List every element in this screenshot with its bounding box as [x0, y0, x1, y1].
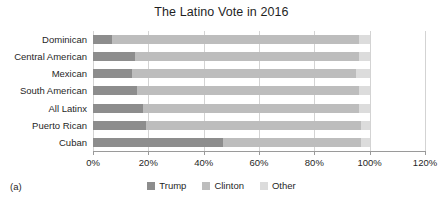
category-label: South American: [20, 82, 87, 99]
category-label: Dominican: [42, 31, 87, 48]
bar-segment-clinton: [143, 104, 359, 113]
bar-segment-clinton: [223, 138, 361, 147]
legend-item[interactable]: Clinton: [202, 180, 244, 191]
bar-segment-clinton: [137, 86, 358, 95]
x-axis-tick: [314, 151, 315, 155]
bar-segment-clinton: [112, 35, 358, 44]
x-axis-tick-label: 20%: [139, 157, 158, 168]
x-axis-tick-label: 40%: [194, 157, 213, 168]
legend-swatch-icon: [147, 182, 155, 190]
category-label: All Latinx: [48, 100, 87, 117]
stacked-bar: [93, 69, 425, 78]
x-axis-tick: [370, 151, 371, 155]
bar-rows: [93, 31, 425, 151]
legend-swatch-icon: [202, 182, 210, 190]
x-axis-tick: [425, 151, 426, 155]
x-axis-tick-label: 120%: [413, 157, 437, 168]
chart-legend: TrumpClintonOther: [0, 180, 443, 191]
bar-row: [93, 65, 425, 82]
bar-segment-other: [359, 35, 370, 44]
x-axis-tick: [148, 151, 149, 155]
x-axis-tick-label: 80%: [305, 157, 324, 168]
legend-label: Clinton: [214, 180, 244, 191]
stacked-bar: [93, 86, 425, 95]
bar-segment-other: [356, 69, 370, 78]
gridline-120: [425, 31, 426, 151]
bar-segment-trump: [93, 121, 146, 130]
legend-item[interactable]: Trump: [147, 180, 186, 191]
bar-segment-other: [361, 121, 369, 130]
bar-segment-clinton: [135, 52, 359, 61]
bar-segment-other: [359, 52, 370, 61]
x-axis-tick-label: 60%: [249, 157, 268, 168]
x-axis-tick-label: 0%: [86, 157, 100, 168]
bar-row: [93, 48, 425, 65]
category-label: Puerto Rican: [32, 117, 87, 134]
legend-item[interactable]: Other: [260, 180, 296, 191]
bar-segment-other: [359, 86, 370, 95]
category-label: Cuban: [59, 134, 87, 151]
stacked-bar: [93, 35, 425, 44]
bar-row: [93, 117, 425, 134]
category-axis-labels: DominicanCentral AmericanMexicanSouth Am…: [0, 31, 90, 151]
figure-caption-label: (a): [10, 181, 22, 192]
bar-segment-clinton: [146, 121, 362, 130]
chart-title: The Latino Vote in 2016: [0, 5, 443, 19]
bar-segment-clinton: [132, 69, 356, 78]
stacked-bar: [93, 121, 425, 130]
bar-segment-other: [361, 138, 369, 147]
stacked-bar: [93, 138, 425, 147]
bar-row: [93, 31, 425, 48]
bar-segment-trump: [93, 52, 135, 61]
x-axis-tick: [93, 151, 94, 155]
bar-segment-other: [359, 104, 370, 113]
x-axis-tick: [204, 151, 205, 155]
stacked-bar: [93, 52, 425, 61]
category-label: Mexican: [52, 65, 87, 82]
bar-row: [93, 100, 425, 117]
legend-swatch-icon: [260, 182, 268, 190]
bar-segment-trump: [93, 69, 132, 78]
plot-area: [93, 31, 425, 151]
legend-label: Trump: [159, 180, 186, 191]
bar-segment-trump: [93, 35, 112, 44]
legend-label: Other: [272, 180, 296, 191]
bar-row: [93, 82, 425, 99]
bar-row: [93, 134, 425, 151]
figure-container: The Latino Vote in 2016 DominicanCentral…: [0, 0, 443, 215]
x-axis-tick-label: 100%: [358, 157, 382, 168]
x-axis-tick: [259, 151, 260, 155]
category-label: Central American: [14, 48, 87, 65]
bar-segment-trump: [93, 138, 223, 147]
bar-segment-trump: [93, 104, 143, 113]
stacked-bar: [93, 104, 425, 113]
bar-segment-trump: [93, 86, 137, 95]
